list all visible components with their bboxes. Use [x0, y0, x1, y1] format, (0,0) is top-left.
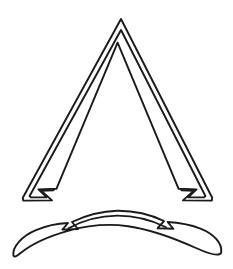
emblem-canvas — [0, 0, 233, 269]
emblem-artwork — [0, 0, 233, 269]
